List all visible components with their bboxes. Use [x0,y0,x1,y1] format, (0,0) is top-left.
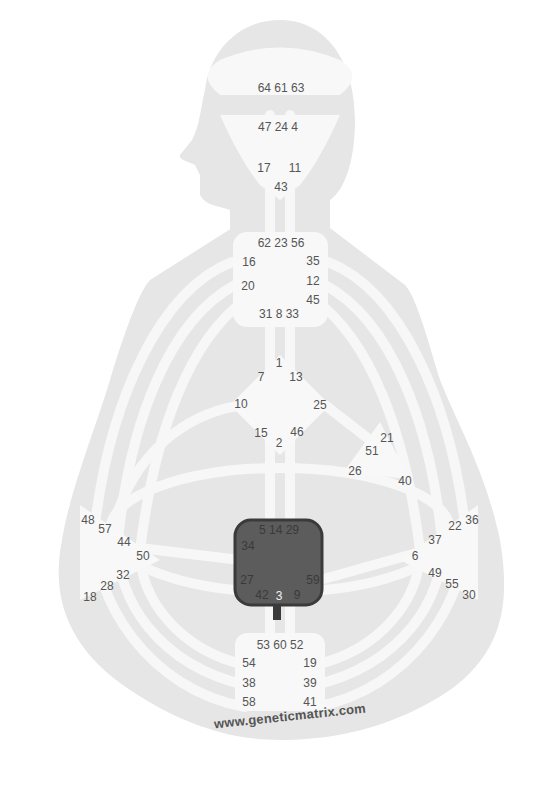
gate-39: 39 [303,677,316,689]
gate-7: 7 [258,371,265,383]
gate-11: 11 [289,162,301,174]
gate-16: 16 [242,256,255,268]
gate-1: 1 [276,357,283,369]
gate-18: 18 [83,591,96,603]
ajna-gates-top: 47 24 4 [258,121,298,133]
gate-46: 46 [290,426,303,438]
root-gates-top: 53 60 52 [257,639,304,651]
gate-58: 58 [242,696,255,708]
gate-17: 17 [257,162,270,174]
gate-45: 45 [306,294,319,306]
sacral-root-channel [273,604,281,620]
gate-13: 13 [289,371,302,383]
gate-49: 49 [428,567,441,579]
gate-27: 27 [240,574,253,586]
gate-20: 20 [241,280,254,292]
gate-36: 36 [465,514,478,526]
gate-34: 34 [241,540,254,552]
gate-21: 21 [380,432,393,444]
sacral-gates-top: 5 14 29 [259,524,299,536]
gate-50: 50 [136,550,149,562]
throat-gates-bottom: 31 8 33 [259,308,299,320]
gate-43: 43 [274,181,287,193]
gate-42: 42 [255,589,268,601]
gate-51: 51 [365,445,378,457]
gate-54: 54 [242,657,255,669]
gate-38: 38 [242,677,255,689]
gate-6: 6 [412,550,419,562]
gate-40: 40 [398,475,411,487]
gate-22: 22 [448,520,461,532]
gate-2: 2 [276,437,283,449]
gate-28: 28 [100,580,113,592]
gate-19: 19 [303,657,316,669]
gate-59: 59 [306,574,319,586]
gate-25: 25 [313,399,326,411]
gate-35: 35 [306,255,319,267]
bodygraph [0,0,560,785]
gate-57: 57 [98,523,111,535]
gate-3: 3 [276,590,283,602]
throat-gates-top: 62 23 56 [258,237,305,249]
gate-26: 26 [348,465,361,477]
gate-10: 10 [234,398,247,410]
gate-12: 12 [306,275,319,287]
gate-9: 9 [294,589,301,601]
head-gates: 64 61 63 [258,82,305,94]
gate-15: 15 [254,427,267,439]
gate-48: 48 [81,514,94,526]
gate-44: 44 [117,536,130,548]
gate-55: 55 [445,578,458,590]
gate-37: 37 [428,534,441,546]
gate-32: 32 [116,569,129,581]
gate-30: 30 [462,589,475,601]
